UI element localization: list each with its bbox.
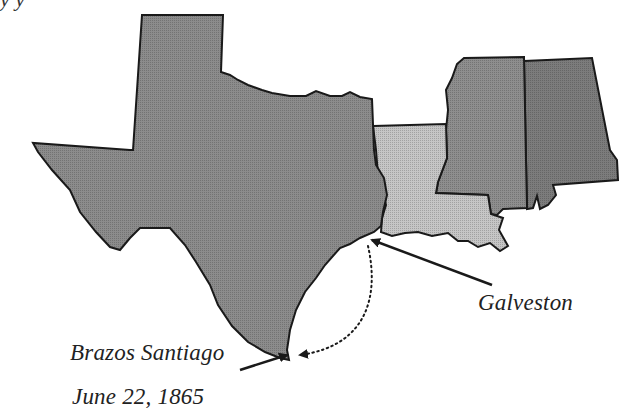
brazos-santiago-label: Brazos Santiago <box>70 340 224 366</box>
state-texas <box>33 15 387 360</box>
galveston-pointer-arrow <box>372 240 492 285</box>
state-alabama <box>524 58 618 209</box>
brazos-pointer-arrow <box>240 355 287 370</box>
date-label: June 22, 1865 <box>72 384 204 410</box>
state-mississippi <box>436 57 527 215</box>
galveston-label: Galveston <box>478 290 573 316</box>
